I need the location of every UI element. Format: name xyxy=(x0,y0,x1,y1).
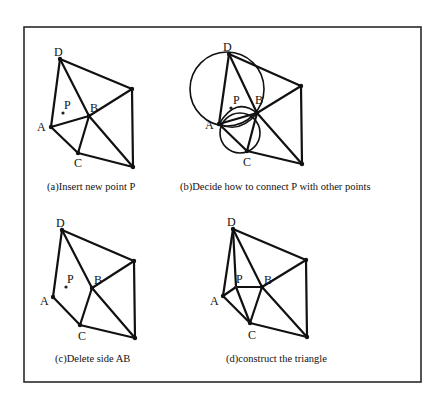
edge-EF xyxy=(306,260,307,337)
label-D: D xyxy=(56,216,65,230)
vertex-C xyxy=(76,151,80,155)
panel-b: DPBAC (b)Decide how to connect P with ot… xyxy=(180,40,371,193)
label-D: D xyxy=(54,45,63,59)
edge-BC xyxy=(78,116,89,153)
vertex-A xyxy=(217,122,221,126)
label-C: C xyxy=(243,155,251,169)
edge-EF xyxy=(301,86,302,164)
panel-a: DPBAC (a)Insert new point P xyxy=(37,45,136,193)
label-P: P xyxy=(233,93,240,107)
edge-EF xyxy=(132,89,133,167)
edge-DE xyxy=(60,59,132,89)
label-C: C xyxy=(78,329,86,343)
vertex-F xyxy=(131,165,135,169)
edge-AC xyxy=(51,127,78,153)
edge-AC xyxy=(53,297,80,325)
edge-DE xyxy=(62,230,134,261)
edge-BC xyxy=(250,287,262,323)
label-A: A xyxy=(37,120,46,134)
vertex-A xyxy=(51,295,55,299)
vertex-F xyxy=(300,162,304,166)
edge-AC xyxy=(219,124,247,151)
point-labels: DPBAC xyxy=(37,45,98,170)
delaunay-insertion-figure: DPBAC (a)Insert new point P DPBAC (b)Dec… xyxy=(0,0,437,401)
edge-BC xyxy=(80,288,92,325)
panel-d-caption: (d)construct the triangle xyxy=(226,353,327,365)
panel-a-caption: (a)Insert new point P xyxy=(47,181,136,193)
edge-CF xyxy=(247,151,302,164)
edge-BF xyxy=(262,287,307,337)
point-labels: DPBAC xyxy=(210,215,272,342)
vertex-E xyxy=(130,87,134,91)
label-P: P xyxy=(67,272,74,286)
vertex-E xyxy=(299,84,303,88)
edge-BF xyxy=(89,116,133,167)
label-B: B xyxy=(255,93,263,107)
label-C: C xyxy=(74,156,82,170)
edge-DA xyxy=(53,230,62,297)
vertex-A xyxy=(221,294,225,298)
edge-AB xyxy=(51,116,89,127)
label-P: P xyxy=(236,272,243,286)
panel-d: DPBAC (d)construct the triangle xyxy=(210,215,327,365)
panel-b-caption: (b)Decide how to connect P with other po… xyxy=(180,181,371,193)
vertex-C xyxy=(78,323,82,327)
point-labels: DPBAC xyxy=(205,40,263,169)
edge-DE xyxy=(229,54,301,86)
vertex-F xyxy=(305,335,309,339)
label-B: B xyxy=(264,273,272,287)
panel-c-caption: (c)Delete side AB xyxy=(55,353,130,365)
label-P: P xyxy=(64,98,71,112)
edge-DA xyxy=(223,229,233,296)
label-B: B xyxy=(94,273,102,287)
label-D: D xyxy=(223,40,232,54)
label-D: D xyxy=(227,215,236,229)
vertex-C xyxy=(245,149,249,153)
edge-CF xyxy=(78,153,133,167)
edge-AC xyxy=(223,296,250,323)
label-B: B xyxy=(90,101,98,115)
label-A: A xyxy=(40,294,49,308)
edge-DE xyxy=(233,229,306,260)
edge-CF xyxy=(250,323,307,337)
panel-c: DPBAC (c)Delete side AB xyxy=(40,216,137,365)
vertex-F xyxy=(133,336,137,340)
edge-EF xyxy=(134,261,135,338)
vertex-C xyxy=(248,321,252,325)
vertex-A xyxy=(49,125,53,129)
vertex-E xyxy=(304,258,308,262)
edge-DA xyxy=(51,59,60,127)
label-A: A xyxy=(210,294,219,308)
edge-PC xyxy=(236,287,250,323)
label-A: A xyxy=(205,118,214,132)
edge-BF xyxy=(92,288,135,338)
vertex-E xyxy=(132,259,136,263)
vertex-B xyxy=(255,111,259,115)
label-C: C xyxy=(248,328,256,342)
edge-BF xyxy=(257,113,302,164)
